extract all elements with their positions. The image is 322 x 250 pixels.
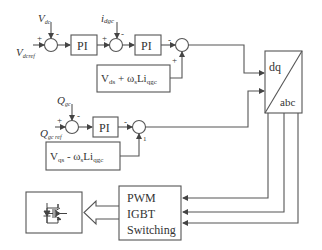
sum-junction-q2 [133,121,146,134]
vdcref-label: Vdcref [16,46,36,59]
minus-sign: - [168,35,171,45]
plus-sign: + [102,33,107,43]
sum-junction-3 [176,39,189,52]
plus-sign: + [172,55,177,65]
minus-sign: - [124,117,127,127]
qgc-label: Qgc [57,94,71,107]
feedforward-q-label: Vqs - ωsLiqgc [50,150,103,164]
phase-c-wire [183,113,298,223]
abc-label: abc [280,96,295,108]
minus-sign: - [121,29,124,39]
control-block-diagram: Vdc - + Vdcref PI idgc + - PI - + Vds + … [0,0,322,250]
dq-label: dq [269,60,281,74]
igbt-label: IGBT [127,207,156,221]
plus-sign: + [37,33,42,43]
vdc-label: Vdc [38,12,51,25]
plus-sign: + [57,115,62,125]
pwm-label: PWM [127,191,156,205]
minus-sign: - [56,29,59,39]
phase-a-wire [183,113,268,198]
pi-label-2: PI [141,39,152,53]
gate-signal-arrow [84,201,119,224]
minus-sign: - [77,111,80,121]
sum-junction-1 [45,39,58,52]
igbt-block [26,192,82,233]
igbt-with-diode-icon [44,203,68,223]
pi-label-3: PI [99,121,110,135]
pi-label-1: PI [77,39,88,53]
plus-sign: 1 [143,135,147,143]
vd-ref-wire [189,45,265,73]
qgcref-label: Qgc ref [40,127,63,140]
idgc-label: idgc [101,12,115,25]
switching-label: Switching [127,223,176,237]
sum-junction-q1 [66,121,79,134]
phase-b-wire [183,113,284,212]
vq-ref-wire [146,91,265,127]
sum-junction-2 [110,39,123,52]
feedforward-d-label: Vds + ωsLiqgc [101,72,157,86]
